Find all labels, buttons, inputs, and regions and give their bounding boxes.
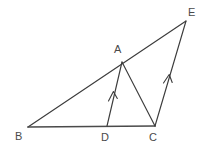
geometry-diagram: B D C A E <box>0 0 209 154</box>
segment-be <box>28 21 186 127</box>
segment-ac <box>122 62 155 126</box>
vertex-label-d: D <box>101 132 109 143</box>
segment-bc <box>28 126 155 127</box>
segment-ce <box>155 21 186 126</box>
vertex-label-c: C <box>149 132 157 143</box>
vertex-label-e: E <box>188 7 195 18</box>
vertex-label-b: B <box>15 131 22 142</box>
vertex-label-a: A <box>114 44 121 55</box>
